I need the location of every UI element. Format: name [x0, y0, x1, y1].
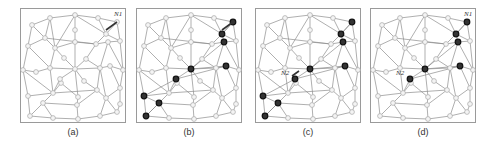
mesh-edge: [310, 69, 313, 97]
mesh-edge: [166, 68, 169, 93]
mesh-node: [98, 114, 103, 119]
mesh-node: [444, 42, 449, 47]
mesh-node: [53, 46, 58, 51]
mesh-node: [234, 102, 239, 107]
highlighted-node: [219, 31, 225, 37]
mesh-edge: [373, 70, 378, 96]
mesh-node: [319, 57, 324, 62]
mesh-node: [465, 110, 470, 115]
mesh-edge: [403, 118, 428, 119]
mesh-node: [48, 66, 53, 71]
mesh-node: [423, 40, 428, 45]
mesh-node: [426, 117, 431, 122]
mesh-edge: [61, 83, 78, 97]
mesh-edge: [403, 90, 447, 93]
mesh-panel-c: N2: [255, 8, 361, 123]
mesh-node: [333, 66, 338, 71]
mesh-edge: [144, 46, 166, 68]
mesh-node: [108, 64, 113, 69]
mesh-node: [393, 36, 398, 41]
mesh-edge: [50, 48, 55, 68]
mesh-edge: [216, 42, 224, 68]
mesh-edge: [267, 25, 280, 38]
mesh-edge: [258, 70, 263, 96]
mesh-edge: [288, 90, 332, 93]
mesh-node: [164, 16, 169, 21]
mesh-node: [104, 32, 109, 37]
highlighted-node: [342, 63, 348, 69]
mesh-edge: [166, 68, 191, 69]
mesh-edge: [75, 69, 78, 97]
mesh-edge: [148, 18, 166, 25]
mesh-node: [412, 56, 417, 61]
mesh-node: [426, 95, 431, 100]
mesh-edge: [50, 68, 53, 93]
mesh-node: [210, 42, 215, 47]
mesh-edge: [75, 68, 100, 69]
mesh-node: [329, 42, 334, 47]
mesh-node: [118, 102, 123, 107]
mesh-node: [118, 39, 123, 44]
mesh-node: [96, 16, 101, 21]
mesh-edge: [263, 46, 285, 68]
mesh-node: [95, 88, 100, 93]
mesh-node: [73, 28, 78, 33]
mesh-edge: [335, 98, 341, 116]
highlighted-node: [453, 31, 459, 37]
mesh-node: [167, 116, 172, 121]
mesh-node: [43, 36, 48, 41]
mesh-edge: [263, 25, 267, 46]
mesh-node: [121, 68, 126, 73]
mesh-node: [142, 44, 147, 49]
mesh-edge: [382, 25, 395, 38]
mesh-node: [403, 46, 408, 51]
mesh-edge: [28, 38, 45, 46]
mesh-edge: [166, 15, 191, 18]
mesh-edge: [310, 15, 333, 18]
mesh-node: [423, 13, 428, 18]
highlighted-node: [221, 39, 227, 45]
mesh-node: [448, 114, 453, 119]
mesh-edge: [169, 90, 213, 93]
mesh-edge: [100, 98, 106, 116]
mesh-node: [391, 101, 396, 106]
mesh-node: [434, 57, 439, 62]
mesh-node: [192, 95, 197, 100]
mesh-edge: [447, 68, 450, 90]
mesh-node: [62, 56, 67, 61]
panel-caption: (b): [136, 127, 242, 137]
highlighted-node: [260, 93, 266, 99]
highlighted-node: [141, 93, 147, 99]
mesh-node: [384, 70, 389, 75]
mesh-edge: [450, 42, 458, 68]
mesh-node: [432, 79, 437, 84]
mesh-node: [58, 77, 63, 82]
mesh-node: [73, 67, 78, 72]
mesh-edge: [460, 66, 470, 88]
mesh-edge: [373, 46, 378, 70]
mesh-edge: [288, 118, 313, 119]
mesh-node: [446, 16, 451, 21]
mesh-node: [310, 103, 315, 108]
mesh-node: [189, 28, 194, 33]
mesh-node: [454, 96, 459, 101]
mesh-panel-d: N1N2: [370, 8, 476, 123]
mesh-node: [376, 44, 381, 49]
node-label-n2: N2: [395, 69, 405, 77]
mesh-edge: [53, 90, 97, 93]
node-label-n2: N2: [280, 69, 290, 77]
mesh-node: [333, 114, 338, 119]
mesh-edge: [146, 116, 169, 118]
mesh-node: [261, 44, 266, 49]
mesh-node: [169, 46, 174, 51]
mesh-edge: [345, 66, 355, 88]
mesh-node: [278, 36, 283, 41]
pointer-arrow-icon: [222, 22, 233, 30]
mesh-node: [356, 68, 361, 73]
mesh-edge: [98, 18, 117, 22]
mesh-node: [371, 68, 376, 73]
mesh-node: [167, 91, 172, 96]
mesh-edge: [144, 93, 169, 96]
panel-caption: (a): [20, 127, 126, 137]
mesh-edge: [169, 118, 194, 119]
